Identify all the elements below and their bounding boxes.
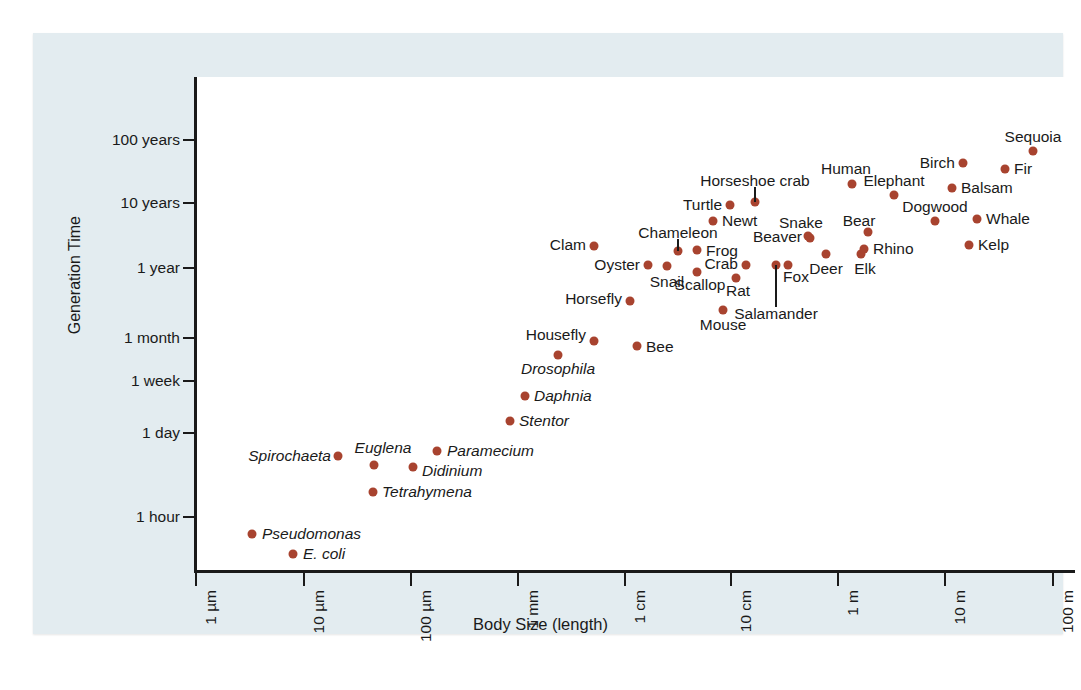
- x-tick-mark: [517, 573, 519, 586]
- data-point-marker[interactable]: [521, 392, 530, 401]
- x-tick-mark: [410, 573, 412, 586]
- data-point-marker[interactable]: [693, 268, 702, 277]
- y-tick-mark: [183, 267, 196, 269]
- y-tick-label: 1 day: [142, 424, 180, 442]
- data-point-marker[interactable]: [693, 246, 702, 255]
- data-point-label: Bee: [646, 339, 674, 355]
- data-point-label: Kelp: [978, 237, 1009, 253]
- data-point-label: Didinium: [422, 463, 482, 479]
- data-point-label: Bear: [843, 213, 876, 229]
- y-tick-label: 1 year: [137, 259, 180, 277]
- x-tick-mark: [944, 573, 946, 586]
- data-point-marker[interactable]: [626, 297, 635, 306]
- data-point-marker[interactable]: [931, 217, 940, 226]
- x-tick-mark: [195, 573, 197, 586]
- data-point-marker[interactable]: [732, 274, 741, 283]
- data-point-marker[interactable]: [369, 488, 378, 497]
- y-axis-line: [194, 77, 197, 573]
- data-point-label: Stentor: [519, 413, 569, 429]
- chameleon-leader: [677, 239, 679, 251]
- x-axis-line: [194, 570, 1075, 573]
- data-point-marker[interactable]: [959, 159, 968, 168]
- y-tick-mark: [183, 516, 196, 518]
- data-point-label: Spirochaeta: [248, 448, 331, 464]
- x-tick-mark: [730, 573, 732, 586]
- data-point-marker[interactable]: [289, 550, 298, 559]
- data-point-marker[interactable]: [890, 191, 899, 200]
- y-axis-title: Generation Time: [66, 216, 84, 334]
- data-point-marker[interactable]: [663, 262, 672, 271]
- data-point-marker[interactable]: [1029, 147, 1038, 156]
- data-point-label: Pseudomonas: [262, 526, 361, 542]
- data-point-marker[interactable]: [742, 261, 751, 270]
- data-point-label: Dogwood: [902, 199, 968, 215]
- y-tick-label: 100 years: [112, 131, 180, 149]
- x-tick-mark: [1052, 573, 1054, 586]
- data-point-marker[interactable]: [370, 461, 379, 470]
- horseshoe-crab-leader: [754, 187, 756, 202]
- data-point-marker[interactable]: [709, 217, 718, 226]
- data-point-label: Turtle: [683, 197, 722, 213]
- data-point-label: Daphnia: [534, 388, 592, 404]
- data-point-marker[interactable]: [948, 184, 957, 193]
- data-point-marker[interactable]: [433, 447, 442, 456]
- data-point-label: Birch: [920, 155, 955, 171]
- data-point-marker[interactable]: [633, 342, 642, 351]
- data-point-marker[interactable]: [848, 180, 857, 189]
- data-point-label: Paramecium: [447, 443, 534, 459]
- data-point-marker[interactable]: [409, 463, 418, 472]
- data-point-marker[interactable]: [644, 261, 653, 270]
- figure-panel: 100 years10 years1 year1 month1 week1 da…: [33, 33, 1063, 634]
- data-point-label: Rat: [726, 283, 750, 299]
- data-point-marker[interactable]: [334, 452, 343, 461]
- y-tick-mark: [183, 432, 196, 434]
- data-point-marker[interactable]: [590, 337, 599, 346]
- y-tick-mark: [183, 202, 196, 204]
- data-point-label: Snake: [779, 215, 823, 231]
- y-tick-mark: [183, 139, 196, 141]
- y-tick-label: 1 week: [131, 372, 180, 390]
- data-point-label: Scallop: [675, 277, 726, 293]
- data-point-label: Salamander: [734, 306, 818, 322]
- data-point-marker[interactable]: [506, 417, 515, 426]
- data-point-label: Horsefly: [565, 291, 622, 307]
- data-point-label: Whale: [986, 211, 1030, 227]
- data-point-marker[interactable]: [719, 306, 728, 315]
- data-point-label: Drosophila: [521, 361, 595, 377]
- data-point-label: Euglena: [355, 440, 412, 456]
- y-tick-label: 1 month: [124, 329, 180, 347]
- x-tick-label: 1 m: [844, 590, 862, 616]
- data-point-label: Tetrahymena: [382, 484, 472, 500]
- x-tick-mark: [303, 573, 305, 586]
- data-point-label: Deer: [809, 261, 843, 277]
- y-tick-mark: [183, 337, 196, 339]
- y-tick-label: 1 hour: [136, 508, 180, 526]
- data-point-marker[interactable]: [804, 232, 813, 241]
- data-point-label: Sequoia: [1005, 129, 1062, 145]
- data-point-label: Elephant: [863, 173, 924, 189]
- data-point-marker[interactable]: [248, 530, 257, 539]
- data-point-label: Crab: [704, 256, 738, 272]
- data-point-label: Rhino: [873, 241, 914, 257]
- data-point-marker[interactable]: [726, 201, 735, 210]
- data-point-marker[interactable]: [965, 241, 974, 250]
- y-tick-mark: [183, 380, 196, 382]
- data-point-marker[interactable]: [973, 215, 982, 224]
- data-point-label: Beaver: [753, 229, 802, 245]
- data-point-marker[interactable]: [554, 351, 563, 360]
- data-point-label: Oyster: [594, 257, 640, 273]
- data-point-label: Fir: [1014, 161, 1032, 177]
- data-point-label: E. coli: [303, 546, 345, 562]
- data-point-marker[interactable]: [822, 250, 831, 259]
- x-tick-mark: [624, 573, 626, 586]
- data-point-label: Elk: [854, 261, 876, 277]
- data-point-marker[interactable]: [1001, 165, 1010, 174]
- data-point-label: Clam: [550, 237, 586, 253]
- x-axis-title: Body Size (length): [0, 615, 1081, 634]
- data-point-marker[interactable]: [590, 242, 599, 251]
- plot-area: [196, 77, 1075, 570]
- data-point-marker[interactable]: [860, 245, 869, 254]
- data-point-label: Newt: [722, 213, 757, 229]
- y-tick-label: 10 years: [121, 194, 180, 212]
- x-tick-mark: [837, 573, 839, 586]
